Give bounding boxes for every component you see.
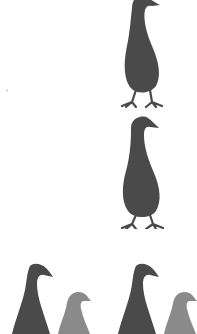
scene-title: Bird silhouettes (0, 0, 1, 1)
illustration-canvas: Bird silhouettes Standing bird (top) Sta… (0, 0, 197, 334)
bird-bottom-right-small-icon: Small bird head (bottom right) (162, 290, 197, 334)
bird-middle-icon: Standing bird (middle) (112, 113, 172, 229)
bird-bottom-right-large-icon: Large bird head and neck (bottom right) (116, 262, 160, 334)
bird-top-icon: Standing bird (top) (112, 0, 172, 108)
bird-bottom-left-small-icon: Small bird head (bottom left) (56, 290, 92, 334)
bird-bottom-left-large-icon: Large bird head and neck (bottom left) (10, 262, 54, 334)
speck-mark (6, 89, 8, 92)
